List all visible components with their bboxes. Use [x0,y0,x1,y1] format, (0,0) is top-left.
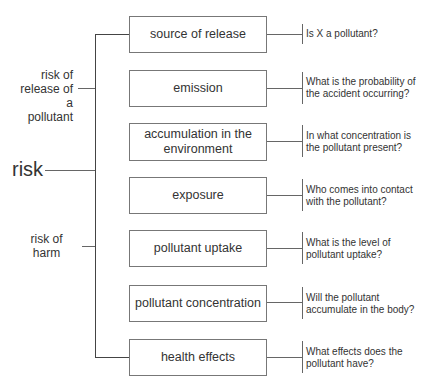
question-bracket [302,287,303,319]
root-label: risk [12,158,43,180]
step-label: pollutant uptake [154,241,242,256]
step-label: source of release [150,27,246,42]
group-label-release: risk of release of a pollutant [20,68,73,124]
step-connector [267,302,302,303]
step-connector [267,88,302,89]
step-box-pollutant-uptake: pollutant uptake [129,230,267,267]
group-connector-release [78,88,96,89]
question-bracket [302,232,303,264]
step-question: Is X a pollutant? [306,28,422,40]
root-connector [45,170,96,171]
step-label: emission [173,81,222,96]
question-bracket [302,125,303,157]
step-box-pollutant-concentration: pollutant concentration [129,285,267,322]
step-box-health-effects: health effects [129,339,267,376]
step-label: exposure [172,188,223,203]
step-box-source-of-release: source of release [129,16,267,53]
step-question: Will the pollutant accumulate in the bod… [306,292,422,316]
step-label: health effects [161,350,235,365]
question-bracket [302,341,303,373]
step-label: pollutant concentration [135,296,261,311]
group-label-harm: risk of harm [20,232,73,260]
spine-bottom-branch [95,357,129,358]
step-question: In what concentration is the pollutant p… [306,130,422,154]
step-connector [267,248,302,249]
step-connector [267,34,302,35]
question-bracket [302,72,303,104]
step-question: What is the level of pollutant uptake? [306,237,422,261]
step-box-exposure: exposure [129,177,267,214]
step-question: What is the probability of the accident … [306,76,422,100]
spine-top-branch [95,34,129,35]
step-box-emission: emission [129,70,267,107]
step-connector [267,141,302,142]
step-label: accumulation in the environment [130,127,266,157]
step-question: Who comes into contact with the pollutan… [306,184,422,208]
step-box-accumulation: accumulation in the environment [129,123,267,161]
step-connector [267,357,302,358]
spine-line [95,34,96,358]
question-bracket [302,179,303,211]
step-question: What effects does the pollutant have? [306,346,422,370]
group-connector-harm [82,246,96,247]
step-connector [267,195,302,196]
question-bracket [302,24,303,44]
